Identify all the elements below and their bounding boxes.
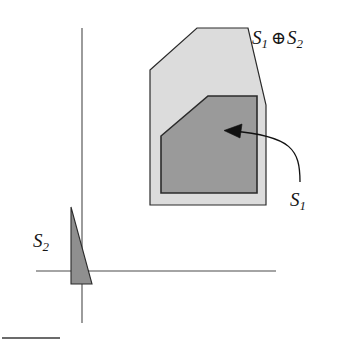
label-minkowski-sum: S1⊕S2: [252, 28, 303, 51]
label-minkowski-sum-subscript: 1: [262, 36, 268, 51]
label-set-s1: S1: [290, 190, 306, 213]
label-set-s1-base: S: [290, 189, 300, 210]
label-set-s2: S2: [33, 231, 49, 254]
oplus-operator-icon: ⊕: [268, 28, 287, 48]
label-minkowski-sum-base: S: [252, 27, 262, 48]
label-minkowski-sum-base2: S: [287, 27, 297, 48]
minkowski-sum-figure: S1⊕S2 S1 S2: [0, 0, 343, 353]
label-set-s2-subscript: 2: [43, 239, 49, 254]
label-set-s1-subscript: 1: [300, 198, 306, 213]
label-set-s2-base: S: [33, 230, 43, 251]
label-minkowski-sum-subscript2: 2: [297, 36, 303, 51]
figure-canvas: [0, 0, 343, 353]
